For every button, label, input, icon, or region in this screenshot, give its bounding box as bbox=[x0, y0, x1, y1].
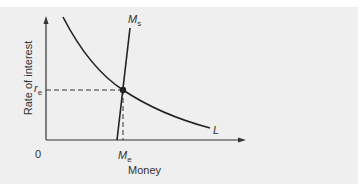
me-main: M bbox=[118, 149, 127, 161]
x-axis-arrow-icon bbox=[238, 138, 246, 143]
re-label: re bbox=[34, 82, 42, 97]
y-axis-label: Rate of interest bbox=[22, 38, 34, 118]
x-axis-label: Money bbox=[128, 164, 161, 176]
liquidity-curve-l bbox=[63, 17, 210, 128]
ms-label: Ms bbox=[128, 13, 141, 28]
equilibrium-point bbox=[120, 87, 126, 93]
me-label: Me bbox=[118, 149, 132, 164]
me-sub: e bbox=[127, 155, 131, 164]
chart-canvas bbox=[0, 0, 364, 193]
ms-sub: s bbox=[137, 19, 141, 28]
l-curve-label: L bbox=[213, 124, 219, 136]
re-sub: e bbox=[38, 88, 42, 97]
origin-label: 0 bbox=[35, 148, 41, 160]
y-axis-arrow-icon bbox=[44, 16, 49, 24]
ms-main: M bbox=[128, 13, 137, 25]
